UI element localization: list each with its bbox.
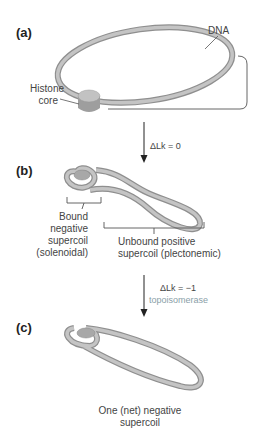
dna-loop-c: [67, 328, 201, 388]
histone-label-line1: Histone: [14, 83, 64, 95]
enzyme-label: topoisomerase: [149, 294, 208, 306]
arrow-1-label: ΔLk = 0: [150, 140, 181, 152]
arrow-2-label: ΔLk = −1: [160, 282, 196, 294]
caption-line-1: One (net) negative: [80, 405, 200, 417]
bound-label-2: negative: [20, 223, 88, 235]
panel-label-b: (b): [16, 163, 33, 178]
bracket-unbound: [104, 222, 204, 234]
histone-core: [78, 90, 100, 112]
unbound-label-2: supercoil (plectonemic): [118, 248, 221, 260]
bracket-bound: [67, 197, 101, 209]
dna-leader-line: [205, 36, 218, 49]
caption-line-2: supercoil: [80, 417, 200, 429]
bound-label-1: Bound: [20, 211, 88, 223]
histone-leader-line: [60, 99, 79, 104]
panel-label-a: (a): [16, 25, 32, 40]
bound-label-4: (solenoidal): [20, 247, 88, 259]
panel-label-c: (c): [16, 320, 32, 335]
arrow-1-head: [141, 155, 148, 163]
bound-label-3: supercoil: [20, 235, 88, 247]
unbound-label-1: Unbound positive: [118, 236, 195, 248]
histone-label-line2: core: [14, 95, 58, 107]
arrow-2-head: [141, 309, 148, 317]
dna-label: DNA: [208, 25, 229, 37]
